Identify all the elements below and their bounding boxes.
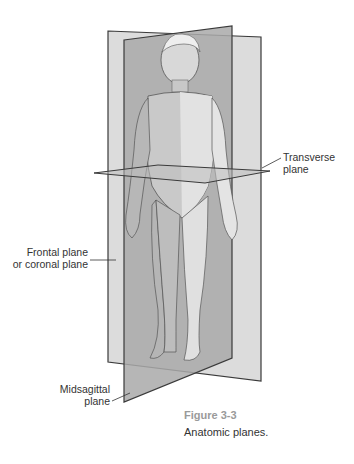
transverse-label-line1: Transverse: [283, 151, 335, 163]
midsagittal-label-line1: Midsagittal: [44, 383, 110, 395]
frontal-label-line1: Frontal plane: [10, 246, 88, 258]
midsagittal-plane-label: Midsagittal plane: [44, 383, 110, 407]
figure-number: Figure 3-3: [184, 409, 237, 421]
transverse-leader-line: [262, 158, 281, 168]
frontal-plane-label: Frontal plane or coronal plane: [10, 246, 88, 270]
transverse-plane-label: Transverse plane: [283, 151, 335, 175]
midsagittal-label-line2: plane: [44, 395, 110, 407]
figure-caption: Anatomic planes.: [184, 426, 268, 438]
frontal-label-line2: or coronal plane: [10, 258, 88, 270]
transverse-label-line2: plane: [283, 163, 335, 175]
